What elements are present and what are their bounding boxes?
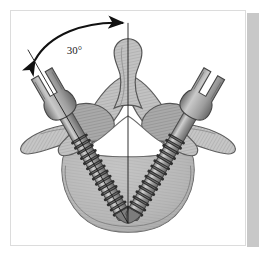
angle-label: 30° bbox=[67, 44, 82, 56]
vertebra-diagram: 30° bbox=[11, 11, 245, 245]
figure-root: 30° bbox=[0, 0, 259, 259]
page-shadow-bottom bbox=[13, 247, 259, 259]
page-shadow-right bbox=[247, 13, 259, 259]
figure-frame: 30° bbox=[10, 10, 246, 246]
